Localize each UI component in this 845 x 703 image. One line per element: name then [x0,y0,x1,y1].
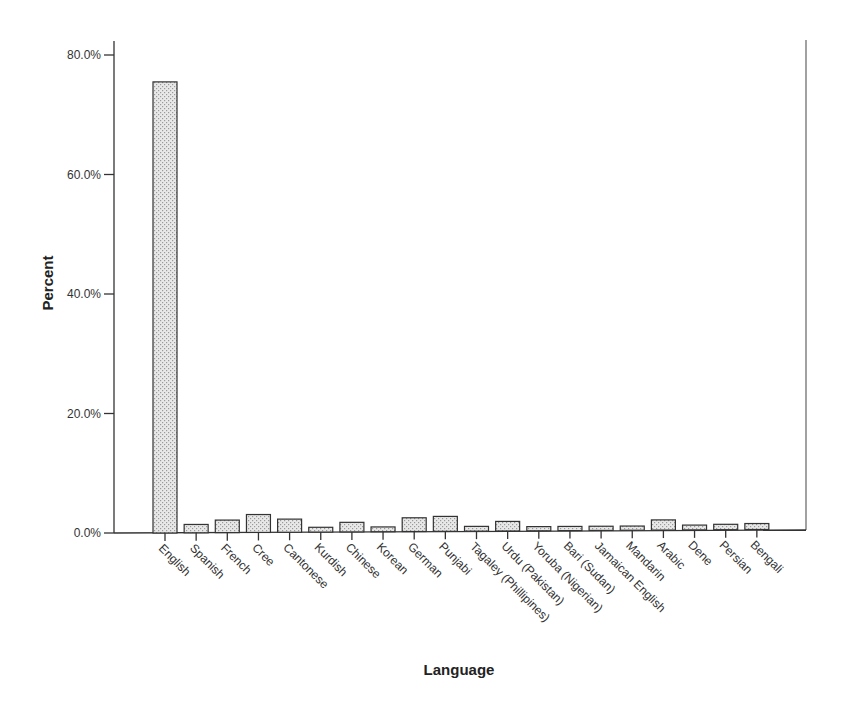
bar-yoruba-nigerian [527,527,551,531]
bar-cantonese [278,519,302,532]
y-tick-label: 80.0% [67,48,101,62]
bar-kurdish [309,527,333,532]
bar-chinese [340,522,364,532]
bar-arabic [651,520,675,530]
bar-urdu-pakistan [496,521,520,531]
y-axis-title: Percent [39,255,56,310]
bar-chart: 0.0%20.0%40.0%60.0%80.0% EnglishSpanishF… [0,0,845,703]
x-tick-label: English [156,541,194,579]
bar-cree [246,515,270,533]
bar-english [153,82,177,533]
y-tick-label: 60.0% [67,168,101,182]
y-tick-label: 0.0% [74,526,102,540]
x-tick-label: Cree [249,541,278,570]
x-axis-ticks: EnglishSpanishFrenchCreeCantoneseKurdish… [156,530,786,625]
x-axis-title: Language [424,661,495,678]
x-tick-label: Bengali [748,538,786,576]
bar-dene [683,525,707,530]
y-tick-label: 20.0% [67,407,101,421]
bar-bari-sudan [558,526,582,530]
plot-frame [114,40,806,533]
bar-mandarin [620,526,644,530]
bar-german [402,518,426,532]
bar-tagaley-phillipines [465,526,489,531]
bar-french [215,520,239,533]
y-axis-ticks: 0.0%20.0%40.0%60.0%80.0% [67,48,114,540]
x-tick-label: Persian [717,538,756,577]
bar-persian [714,524,738,529]
bars [153,82,769,533]
bar-jamaican-english [589,526,613,530]
bar-korean [371,527,395,532]
bar-spanish [184,524,208,532]
bar-punjabi [433,516,457,531]
y-tick-label: 40.0% [67,287,101,301]
bar-bengali [745,524,769,530]
x-tick-label: Dene [685,538,715,568]
